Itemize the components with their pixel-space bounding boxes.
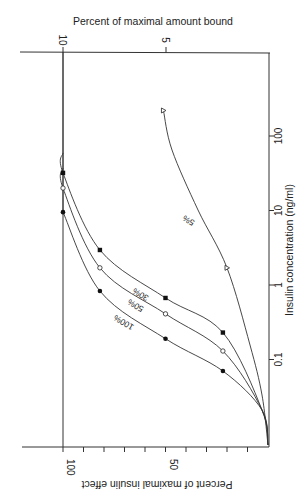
curve-labels: 100%50%30%5%: [111, 213, 196, 332]
y-tick-label: 50: [168, 459, 179, 471]
curve-label: 5%: [180, 213, 196, 228]
y2-tick-label: 5: [160, 37, 171, 43]
curve-50pct: [60, 168, 268, 445]
data-point-open-circle: [221, 349, 225, 353]
ticks: [63, 47, 274, 452]
right-axis-title: Insulin concentration (ng/ml): [283, 184, 295, 316]
top-axis-line: [20, 52, 270, 53]
data-point-filled-circle: [163, 336, 168, 341]
data-point-filled-square: [163, 296, 167, 300]
y-tick-label: 100: [65, 459, 76, 476]
data-point-open-circle: [98, 266, 102, 270]
data-point-filled-square: [221, 330, 225, 334]
curve-5pct: [163, 110, 268, 445]
data-point-filled-circle: [61, 210, 66, 215]
data-point-open-circle: [163, 312, 167, 316]
bottom-axis-title: Percent of maximal insulin effect: [81, 479, 232, 491]
y2-tick-label: 10: [57, 34, 68, 46]
top-axis-title: Percent of maximal amount bound: [73, 15, 233, 27]
x-tick-label: 100: [273, 127, 284, 144]
x-tick-label: 0.1: [273, 352, 284, 366]
axes: [20, 52, 270, 447]
data-point-filled-circle: [221, 369, 226, 374]
dose-response-chart: 0.111010050100510 Percent of maximal amo…: [0, 0, 306, 501]
data-point-open-circle: [61, 186, 65, 190]
curve-label: 100%: [111, 313, 135, 333]
data-point-filled-square: [98, 248, 102, 252]
data-point-filled-circle: [98, 289, 103, 294]
curve-100pct: [63, 212, 268, 445]
data-point-filled-square: [61, 171, 65, 175]
markers: [61, 108, 230, 373]
